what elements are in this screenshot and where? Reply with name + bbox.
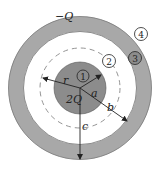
radius-c-label: c (82, 120, 88, 133)
svg-text:4: 4 (138, 30, 144, 40)
radius-b-label: b (107, 101, 114, 114)
region-3-marker: 3 (129, 52, 142, 65)
region-2-marker: 2 (103, 55, 116, 68)
region-4-marker: 4 (135, 28, 148, 41)
concentric-sphere-diagram: −Q 2Q r a b c 1 2 3 4 (0, 0, 161, 173)
svg-text:3: 3 (132, 54, 138, 64)
svg-text:2: 2 (106, 57, 112, 67)
radius-a-label: a (91, 87, 98, 100)
inner-charge-label: 2Q (65, 93, 82, 106)
svg-text:1: 1 (80, 72, 86, 82)
outer-charge-label: −Q (55, 10, 73, 23)
radius-r-label: r (63, 74, 69, 87)
